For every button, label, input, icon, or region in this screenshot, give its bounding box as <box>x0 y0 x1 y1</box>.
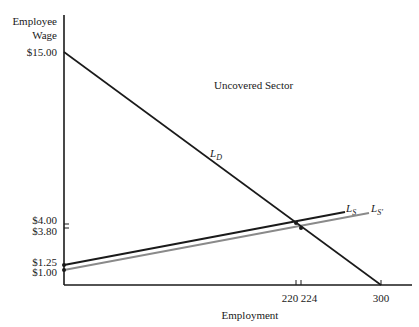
label-ls-prime: LS' <box>370 202 383 217</box>
annotation-uncovered-sector: Uncovered Sector <box>214 79 293 91</box>
series-ls-prime <box>64 213 369 270</box>
point-ls-intercept <box>62 263 66 267</box>
series-ls <box>64 212 345 265</box>
point-ld-ls-prime <box>299 226 303 230</box>
y-axis-label-line1: Employee <box>12 15 57 27</box>
label-ls: LS <box>345 202 356 217</box>
chart: Employee Wage $15.00 $4.00 $3.80 $1.25 $… <box>0 0 419 327</box>
y-tick-15: $15.00 <box>27 46 58 58</box>
point-ls-prime-intercept <box>62 268 66 272</box>
point-ld-ls <box>294 221 298 225</box>
x-tick-224: 224 <box>301 292 318 304</box>
y-tick-1: $1.00 <box>32 266 57 278</box>
x-tick-220: 220 <box>282 292 299 304</box>
y-tick-3-80: $3.80 <box>32 225 57 237</box>
x-tick-300: 300 <box>373 292 390 304</box>
x-axis-label: Employment <box>222 309 279 321</box>
y-axis-label-line2: Wage <box>32 29 57 41</box>
